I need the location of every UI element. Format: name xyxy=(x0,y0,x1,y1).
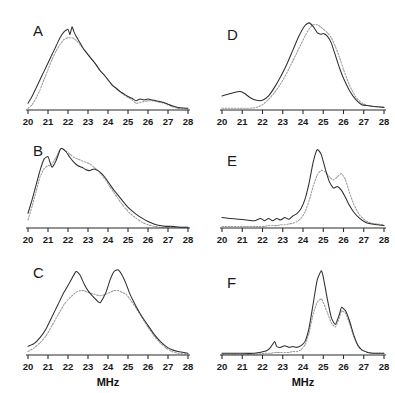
x-tick-label: 25 xyxy=(123,116,134,127)
x-tick-label: 23 xyxy=(277,116,288,127)
curve-a-solid xyxy=(28,27,188,108)
x-tick-label: 20 xyxy=(217,361,228,372)
curve-b-solid xyxy=(28,148,188,227)
panel-b: 202122232425262728B xyxy=(23,142,194,245)
x-tick-label: 26 xyxy=(338,116,349,127)
panel-letter-a: A xyxy=(33,22,43,39)
x-tick-label: 21 xyxy=(237,361,248,372)
panel-a: 202122232425262728A xyxy=(23,22,194,127)
x-tick-label: 26 xyxy=(338,234,349,245)
x-tick-label: 27 xyxy=(358,116,369,127)
x-tick-label: 23 xyxy=(83,116,94,127)
x-tick-label: 26 xyxy=(143,116,154,127)
curve-f-dotted xyxy=(222,299,384,354)
x-tick-label: 20 xyxy=(23,234,34,245)
curve-d-dotted xyxy=(222,24,384,108)
x-tick-label: 24 xyxy=(103,116,114,127)
x-tick-label: 20 xyxy=(23,116,34,127)
x-tick-label: 21 xyxy=(43,234,54,245)
x-tick-label: 28 xyxy=(379,116,390,127)
x-tick-label: 25 xyxy=(123,234,134,245)
x-tick-label: 28 xyxy=(183,361,194,372)
curve-d-solid xyxy=(222,23,384,107)
x-tick-label: 28 xyxy=(183,116,194,127)
x-tick-label: 21 xyxy=(43,116,54,127)
curve-f-solid xyxy=(222,271,384,354)
x-tick-label: 25 xyxy=(318,116,329,127)
x-tick-label: 24 xyxy=(103,361,114,372)
x-tick-label: 27 xyxy=(358,361,369,372)
x-tick-label: 22 xyxy=(63,116,74,127)
x-axis-title-f: MHz xyxy=(292,376,315,388)
x-tick-label: 20 xyxy=(217,116,228,127)
x-tick-label: 28 xyxy=(379,361,390,372)
curve-a-dotted xyxy=(28,38,188,109)
x-tick-label: 20 xyxy=(217,234,228,245)
panel-letter-d: D xyxy=(227,26,238,43)
x-tick-label: 26 xyxy=(338,361,349,372)
panel-letter-c: C xyxy=(33,264,44,281)
x-tick-label: 22 xyxy=(257,116,268,127)
panel-letter-b: B xyxy=(33,142,43,159)
x-tick-label: 23 xyxy=(277,361,288,372)
x-tick-label: 25 xyxy=(318,361,329,372)
x-tick-label: 27 xyxy=(163,234,174,245)
x-tick-label: 22 xyxy=(257,234,268,245)
x-tick-label: 21 xyxy=(237,234,248,245)
panel-letter-f: F xyxy=(227,274,236,291)
x-tick-label: 21 xyxy=(43,361,54,372)
x-tick-label: 24 xyxy=(103,234,114,245)
x-tick-label: 26 xyxy=(143,361,154,372)
spectra-figure: 202122232425262728A202122232425262728B20… xyxy=(0,0,395,393)
x-tick-label: 26 xyxy=(143,234,154,245)
curve-b-dotted xyxy=(28,148,188,227)
x-tick-label: 27 xyxy=(358,234,369,245)
panel-d: 202122232425262728D xyxy=(217,23,390,127)
x-tick-label: 24 xyxy=(298,234,309,245)
panel-letter-e: E xyxy=(227,152,237,169)
x-tick-label: 23 xyxy=(83,361,94,372)
x-tick-label: 22 xyxy=(257,361,268,372)
curve-e-solid xyxy=(222,150,384,226)
x-tick-label: 27 xyxy=(163,361,174,372)
x-tick-label: 24 xyxy=(298,361,309,372)
x-tick-label: 23 xyxy=(83,234,94,245)
x-axis-title-c: MHz xyxy=(97,376,120,388)
x-tick-label: 20 xyxy=(23,361,34,372)
x-tick-label: 22 xyxy=(63,361,74,372)
curve-c-solid xyxy=(28,270,188,354)
x-tick-label: 24 xyxy=(298,116,309,127)
x-tick-label: 28 xyxy=(379,234,390,245)
x-tick-label: 27 xyxy=(163,116,174,127)
figure-canvas: 202122232425262728A202122232425262728B20… xyxy=(0,0,395,393)
x-tick-label: 22 xyxy=(63,234,74,245)
panel-f: 202122232425262728FMHz xyxy=(217,271,390,388)
x-tick-label: 28 xyxy=(183,234,194,245)
x-tick-label: 23 xyxy=(277,234,288,245)
x-tick-label: 25 xyxy=(318,234,329,245)
x-tick-label: 21 xyxy=(237,116,248,127)
panel-e: 202122232425262728E xyxy=(217,150,390,245)
panel-c: 202122232425262728CMHz xyxy=(23,264,194,388)
x-tick-label: 25 xyxy=(123,361,134,372)
